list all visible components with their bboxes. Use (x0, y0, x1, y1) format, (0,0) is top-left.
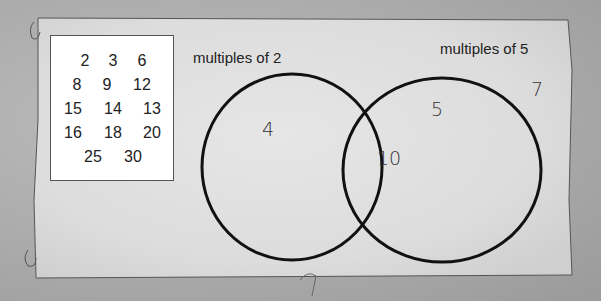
set-label-multiples-of-5: multiples of 5 (440, 40, 528, 57)
number[interactable]: 13 (143, 100, 161, 118)
placed-number-a-only[interactable]: 4 (262, 118, 274, 140)
number[interactable]: 2 (81, 52, 90, 70)
number[interactable]: 16 (64, 124, 82, 142)
number[interactable]: 14 (104, 100, 122, 118)
number[interactable]: 18 (104, 124, 122, 142)
placed-number-b-only[interactable]: 5 (431, 98, 443, 120)
number[interactable]: 30 (124, 148, 142, 166)
number[interactable]: 3 (109, 52, 118, 70)
placed-number-both[interactable]: 10 (377, 147, 401, 169)
number[interactable]: 9 (103, 76, 112, 94)
placed-number-outside[interactable]: 7 (531, 78, 543, 100)
set-label-multiples-of-2: multiples of 2 (193, 49, 281, 66)
number[interactable]: 15 (64, 100, 82, 118)
number[interactable]: 25 (84, 148, 102, 166)
number[interactable]: 8 (73, 76, 82, 94)
number-list-box: 2 3 6 8 9 12 15 14 13 16 18 20 25 30 (50, 35, 174, 181)
number[interactable]: 12 (133, 76, 151, 94)
number[interactable]: 6 (138, 52, 147, 70)
number[interactable]: 20 (143, 124, 161, 142)
